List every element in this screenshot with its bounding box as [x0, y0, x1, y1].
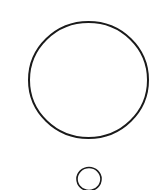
large-circle: [29, 22, 148, 138]
diagram-canvas: [0, 0, 154, 190]
diagram-svg: [0, 0, 154, 190]
small-circle: [77, 168, 101, 191]
